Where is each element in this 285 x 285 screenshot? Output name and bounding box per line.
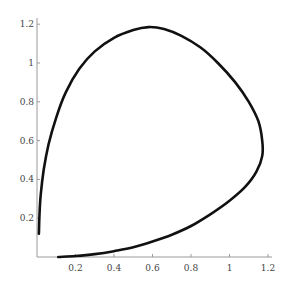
- x-tick-label: 1.2: [261, 263, 275, 273]
- chart: 0.20.40.60.811.2 0.20.40.60.811.2: [0, 0, 285, 285]
- y-tick-label: 0.8: [20, 97, 35, 107]
- x-tick-label: 1: [227, 263, 233, 273]
- y-tick-label: 0.2: [20, 213, 34, 223]
- x-tick-label: 0.2: [68, 263, 82, 273]
- y-tick-label: 1: [28, 58, 34, 68]
- x-tick-label: 0.8: [184, 263, 199, 273]
- x-tick-label: 0.4: [107, 263, 122, 273]
- x-tick-label: 0.6: [145, 263, 160, 273]
- y-tick-label: 0.6: [20, 136, 35, 146]
- y-tick-label: 1.2: [20, 19, 34, 29]
- y-tick-label: 0.4: [20, 174, 35, 184]
- curve-line: [39, 27, 263, 257]
- axes: [37, 18, 272, 257]
